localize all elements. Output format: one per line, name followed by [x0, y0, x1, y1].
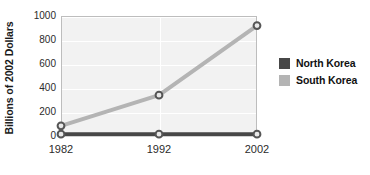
data-point-marker — [254, 131, 261, 138]
data-point-marker — [58, 131, 65, 138]
data-point-marker — [156, 92, 163, 99]
data-series-layer — [61, 16, 257, 136]
line-chart: Billions of 2002 Dollars 100080060040020… — [0, 0, 370, 175]
y-axis-tick-label: 200 — [22, 107, 56, 117]
y-axis-tick-label: 1000 — [22, 11, 56, 21]
y-axis-title: Billions of 2002 Dollars — [3, 8, 15, 148]
data-point-marker — [156, 131, 163, 138]
legend-label: North Korea — [296, 57, 356, 69]
legend-swatch-icon — [279, 75, 290, 86]
data-point-marker — [58, 122, 65, 129]
legend-item[interactable]: North Korea — [279, 57, 357, 69]
y-axis-tick-label: 800 — [22, 35, 56, 45]
y-axis-tick-label: 600 — [22, 59, 56, 69]
legend: North KoreaSouth Korea — [279, 57, 357, 86]
legend-swatch-icon — [279, 58, 290, 69]
legend-label: South Korea — [296, 74, 357, 86]
x-axis-tick-label: 1992 — [129, 143, 189, 155]
data-point-marker — [254, 22, 261, 29]
legend-item[interactable]: South Korea — [279, 74, 357, 86]
x-axis-tick-label: 2002 — [227, 143, 287, 155]
y-axis-tick-label: 0 — [22, 131, 56, 141]
series-line — [61, 26, 257, 126]
y-axis-tick-label: 400 — [22, 83, 56, 93]
x-axis-tick-label: 1982 — [31, 143, 91, 155]
